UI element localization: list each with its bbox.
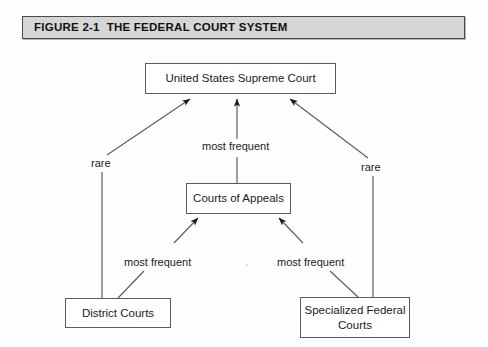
edge-line-district-to-supreme (107, 99, 190, 155)
figure-container: FIGURE 2-1 THE FEDERAL COURT SYSTEM (0, 0, 488, 347)
diagram-connectors (0, 0, 488, 347)
edge-label-most-frequent-bottom-right: most frequent (274, 256, 347, 268)
edge-line-special-to-supreme (290, 99, 368, 158)
node-courts-of-appeals-label: Courts of Appeals (193, 191, 284, 205)
edge-line-district-to-appeals (174, 218, 198, 243)
node-supreme-court: United States Supreme Court (145, 63, 336, 94)
edge-line-special-to-appeals (279, 218, 303, 243)
node-district-courts-label: District Courts (82, 306, 154, 320)
edge-line-special-to-appeals-lower (330, 271, 358, 297)
edge-label-most-frequent-top: most frequent (199, 140, 272, 152)
edge-label-most-frequent-bottom-left: most frequent (121, 256, 194, 268)
node-district-courts: District Courts (65, 298, 171, 328)
edge-label-rare-right: rare (358, 161, 384, 173)
node-courts-of-appeals: Courts of Appeals (186, 183, 291, 214)
edge-label-rare-left: rare (88, 157, 114, 169)
node-specialized-federal-courts-label: Specialized Federal Courts (301, 303, 409, 332)
node-specialized-federal-courts: Specialized Federal Courts (300, 297, 410, 338)
node-supreme-court-label: United States Supreme Court (165, 71, 315, 85)
edge-line-district-to-appeals-lower (118, 271, 144, 298)
